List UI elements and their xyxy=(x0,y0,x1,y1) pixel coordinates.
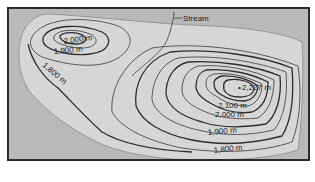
label-east-2000: 2,000 m xyxy=(215,110,244,119)
topographic-map: Stream 2,000 m 1,900 m 1,800 m • 2,227 m… xyxy=(7,7,310,161)
contour-map-svg: Stream 2,000 m 1,900 m 1,800 m • 2,227 m… xyxy=(9,9,310,161)
label-summit-marker: • xyxy=(238,83,241,92)
label-stream: Stream xyxy=(183,14,209,23)
label-summit: 2,227 m xyxy=(242,83,271,92)
label-east-2100: 2,100 m xyxy=(218,101,247,110)
